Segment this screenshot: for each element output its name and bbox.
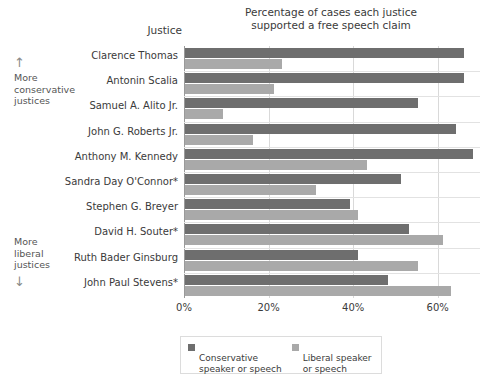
bar-group <box>185 149 481 172</box>
bar-group <box>185 250 481 273</box>
bar-conservative <box>185 48 464 58</box>
category-axis-label: Justice <box>92 24 182 36</box>
justice-label: Ruth Bader Ginsburg <box>28 252 178 263</box>
bar-conservative <box>185 275 388 285</box>
chart-title: Percentage of cases each justice support… <box>226 6 436 32</box>
chart-title-line1: Percentage of cases each justice <box>245 6 417 18</box>
bar-group <box>185 224 481 247</box>
row-separator <box>184 248 480 249</box>
row-separator <box>184 147 480 148</box>
legend-label-conservative: Conservativespeaker or speech <box>199 342 282 375</box>
justice-label: John G. Roberts Jr. <box>28 126 178 137</box>
chart-title-line2: supported a free speech claim <box>251 19 411 31</box>
bar-liberal <box>185 135 253 145</box>
bar-liberal <box>185 59 282 69</box>
bar-group <box>185 98 481 121</box>
bar-group <box>185 48 481 71</box>
bar-liberal <box>185 160 367 170</box>
legend-swatch-liberal-icon <box>292 344 299 351</box>
annotation-more-liberal-line1: More <box>14 236 38 247</box>
justice-label: Anthony M. Kennedy <box>28 151 178 162</box>
row-separator <box>184 96 480 97</box>
row-separator <box>184 122 480 123</box>
legend-swatch-conservative-icon <box>188 344 195 351</box>
chart-figure: ↑ More conservative justices More libera… <box>0 0 488 385</box>
bar-conservative <box>185 149 473 159</box>
bar-conservative <box>185 174 401 184</box>
justice-label: John Paul Stevens* <box>28 277 178 288</box>
x-tick-label-0: 0% <box>176 302 192 313</box>
x-tick-label-60: 60% <box>427 302 449 313</box>
bar-liberal <box>185 109 223 119</box>
bar-group <box>185 73 481 96</box>
bar-liberal <box>185 84 274 94</box>
bar-liberal <box>185 235 443 245</box>
row-separator <box>184 172 480 173</box>
bar-liberal <box>185 210 358 220</box>
justice-label: Sandra Day O'Connor* <box>28 176 178 187</box>
justice-label: Samuel A. Alito Jr. <box>28 100 178 111</box>
bar-conservative <box>185 73 464 83</box>
justice-label: Antonin Scalia <box>28 75 178 86</box>
bar-liberal <box>185 261 418 271</box>
bar-group <box>185 124 481 147</box>
justice-label: Stephen G. Breyer <box>28 201 178 212</box>
legend-item-liberal: Liberal speakeror speech <box>292 342 372 373</box>
bar-conservative <box>185 199 350 209</box>
legend-item-conservative: Conservativespeaker or speech <box>188 342 282 373</box>
x-tick-label-20: 20% <box>257 302 279 313</box>
bar-conservative <box>185 224 409 234</box>
row-separator <box>184 71 480 72</box>
bar-conservative <box>185 250 358 260</box>
legend-label-liberal: Liberal speakeror speech <box>303 342 372 375</box>
bar-group <box>185 174 481 197</box>
bar-conservative <box>185 124 456 134</box>
x-tick-label-40: 40% <box>342 302 364 313</box>
bar-group <box>185 199 481 222</box>
bar-liberal <box>185 185 316 195</box>
plot-area <box>184 46 480 298</box>
row-separator <box>184 273 480 274</box>
bar-liberal <box>185 286 451 296</box>
row-separator <box>184 197 480 198</box>
bar-group <box>185 275 481 298</box>
bar-conservative <box>185 98 418 108</box>
justice-label: Clarence Thomas <box>28 50 178 61</box>
justice-label: David H. Souter* <box>28 226 178 237</box>
chart-legend: Conservativespeaker or speech Liberal sp… <box>180 336 382 374</box>
row-separator <box>184 222 480 223</box>
